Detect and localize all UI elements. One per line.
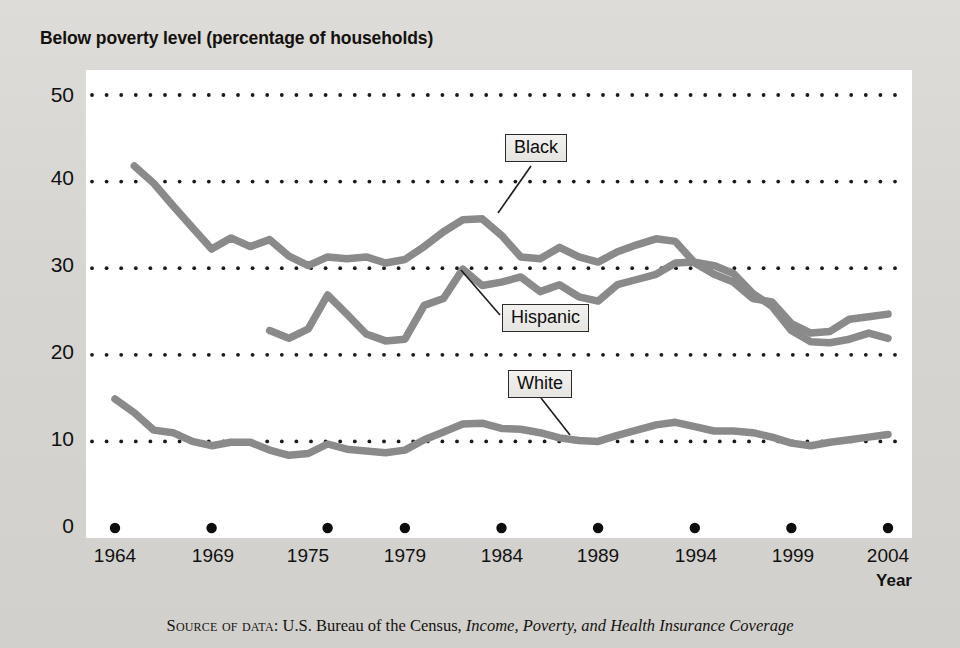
source-note: Source of data: U.S. Bureau of the Censu… (0, 616, 960, 636)
leader-line-hispanic (461, 270, 500, 315)
source-prefix: Source of data (167, 616, 274, 635)
series-label-white: White (508, 370, 572, 398)
source-separator: : (274, 616, 283, 635)
ytick-label-30: 30 (30, 253, 74, 277)
ytick-label-50: 50 (30, 83, 74, 107)
figure-container: Below poverty level (percentage of house… (0, 0, 960, 648)
ytick-label-10: 10 (30, 427, 74, 451)
ytick-label-20: 20 (30, 340, 74, 364)
xtick-label-1969: 1969 (173, 545, 253, 567)
xaxis-title: Year (876, 571, 912, 591)
series-label-hispanic: Hispanic (502, 304, 589, 332)
xtick-label-2004: 2004 (848, 545, 928, 567)
xtick-label-1964: 1964 (75, 545, 155, 567)
ytick-label-40: 40 (30, 166, 74, 190)
xtick-label-1999: 1999 (753, 545, 833, 567)
xtick-label-1979: 1979 (365, 545, 445, 567)
leader-line-white (541, 398, 570, 435)
series-line-white (115, 399, 888, 455)
gridlines-group (90, 93, 897, 443)
xtick-label-1989: 1989 (558, 545, 638, 567)
xtick-label-1984: 1984 (462, 545, 542, 567)
series-label-black: Black (505, 134, 567, 162)
ytick-label-0: 0 (30, 514, 74, 538)
leader-line-black (498, 166, 531, 213)
xaxis-tick-markers-group (110, 523, 893, 533)
xtick-label-1975: 1975 (268, 545, 348, 567)
source-agency: U.S. Bureau of the Census, (283, 616, 466, 635)
source-publication: Income, Poverty, and Health Insurance Co… (466, 616, 794, 635)
xtick-label-1994: 1994 (656, 545, 736, 567)
